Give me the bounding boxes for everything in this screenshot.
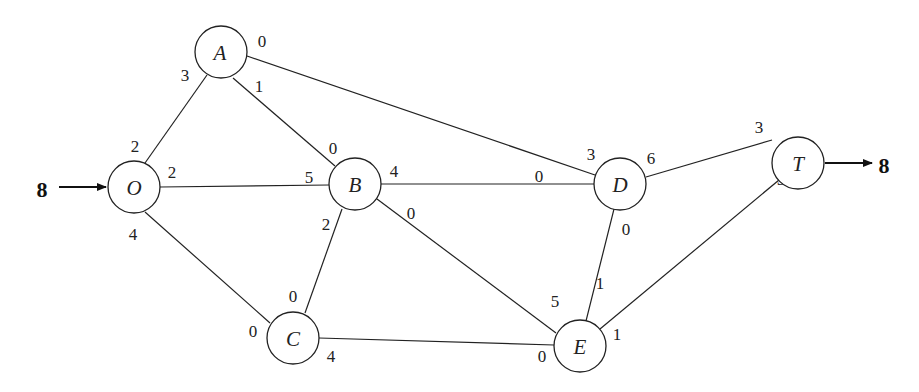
cap-O-A-at-O: 2: [131, 137, 140, 156]
cap-O-C-at-C: 0: [249, 322, 258, 341]
node-T: T: [772, 137, 824, 189]
edge-O-A: [145, 75, 207, 163]
source-flow: 8: [37, 177, 107, 202]
cap-B-E-at-E: 5: [551, 292, 560, 311]
edge-D-E: [586, 209, 614, 321]
cap-D-T-at-D: 6: [647, 149, 656, 168]
cap-B-C-at-C: 0: [289, 287, 298, 306]
cap-B-C-at-B: 2: [322, 215, 331, 234]
edge-D-T: [646, 140, 772, 177]
node-label-O: O: [126, 176, 141, 200]
edges: [145, 56, 779, 345]
node-label-E: E: [573, 335, 587, 359]
cap-O-B-at-O: 2: [168, 163, 177, 182]
edge-O-C: [145, 212, 270, 323]
cap-A-B-at-B: 0: [329, 139, 338, 158]
cap-A-D-at-D: 3: [587, 145, 596, 164]
nodes: O A B C D E T: [108, 26, 824, 372]
cap-C-E-at-E: 0: [538, 347, 547, 366]
cap-D-E-at-E: 1: [596, 274, 605, 293]
cap-E-T-at-E: 1: [613, 325, 622, 344]
cap-B-D-at-B: 4: [390, 162, 399, 181]
edge-B-E: [377, 199, 556, 333]
cap-O-B-at-B: 5: [305, 168, 314, 187]
edge-O-B: [160, 185, 329, 187]
node-D: D: [594, 158, 646, 210]
sink-flow: 8: [825, 153, 890, 178]
cap-D-T-at-T: 3: [755, 118, 764, 137]
edge-C-E: [319, 338, 554, 345]
cap-B-E-at-B: 0: [407, 204, 416, 223]
node-E: E: [554, 320, 606, 372]
cap-D-E-at-D: 0: [622, 220, 631, 239]
node-B: B: [329, 158, 381, 210]
node-A: A: [195, 26, 247, 78]
node-label-D: D: [611, 173, 627, 197]
edge-A-D: [247, 56, 595, 175]
node-C: C: [267, 312, 319, 364]
node-label-C: C: [286, 327, 301, 351]
edge-A-B: [233, 78, 335, 166]
cap-O-C-at-O: 4: [129, 225, 138, 244]
cap-A-D-at-A: 0: [258, 32, 267, 51]
capacity-labels: 2 3 2 5 4 0 1 0 0 3 2 0 4 0 0 5 4 0 0 1 …: [129, 32, 786, 366]
cap-C-E-at-C: 4: [327, 347, 336, 366]
node-label-T: T: [792, 152, 805, 176]
sink-flow-value: 8: [879, 153, 890, 178]
cap-B-D-at-D: 0: [535, 167, 544, 186]
flow-network-diagram: 8 8 2 3 2 5 4 0 1 0 0 3 2 0 4 0 0 5 4 0 …: [0, 0, 919, 392]
cap-A-B-at-A: 1: [255, 77, 264, 96]
cap-O-A-at-A: 3: [181, 66, 190, 85]
source-flow-value: 8: [37, 177, 48, 202]
node-O: O: [108, 161, 160, 213]
node-label-A: A: [212, 41, 227, 65]
node-label-B: B: [349, 173, 362, 197]
